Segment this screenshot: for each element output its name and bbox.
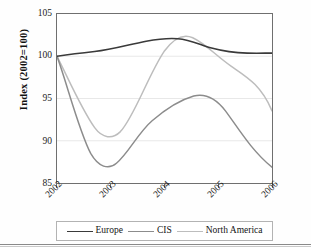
y-tick-label-100: 100 bbox=[18, 51, 52, 61]
plot-area bbox=[56, 13, 273, 184]
y-axis-title: Index (2002=100) bbox=[18, 0, 29, 145]
footer-divider bbox=[0, 244, 311, 245]
legend-label-europe: Europe bbox=[96, 226, 123, 236]
series-line-north-america bbox=[57, 36, 272, 137]
y-tick-label-90: 90 bbox=[18, 137, 52, 147]
y-tick-label-95: 95 bbox=[18, 94, 52, 104]
y-tick-label-105: 105 bbox=[18, 9, 52, 19]
legend-swatch-cis bbox=[128, 231, 154, 232]
legend-label-cis: CIS bbox=[157, 226, 172, 236]
chart-figure: Index (2002=100) 105 100 95 90 85 2002 2… bbox=[0, 0, 311, 247]
legend-item-north-america[interactable]: North America bbox=[177, 226, 263, 236]
legend-label-north-america: North America bbox=[206, 226, 263, 236]
legend-item-cis[interactable]: CIS bbox=[128, 226, 172, 236]
legend-swatch-north-america bbox=[177, 231, 203, 232]
series-line-europe bbox=[57, 38, 272, 56]
legend-item-europe[interactable]: Europe bbox=[67, 226, 123, 236]
data-lines bbox=[57, 14, 272, 183]
chart-legend: Europe CIS North America bbox=[56, 221, 273, 241]
legend-swatch-europe bbox=[67, 231, 93, 232]
